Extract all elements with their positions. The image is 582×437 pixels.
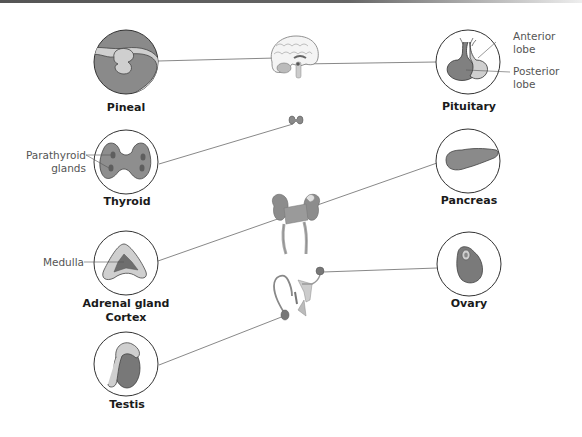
callout-anterior-line1: Anterior [513,30,555,43]
callout-anterior-lobe: Anterior lobe [513,30,555,56]
label-pituitary: Pituitary [442,100,496,114]
callout-parathyroid-line1: Parathyroid [24,149,86,162]
line-pituitary [300,62,436,64]
label-thyroid: Thyroid [103,195,150,209]
label-adrenal-cortex: Cortex [106,311,147,325]
pineal-detail [90,30,162,100]
callout-parathyroid-glands: Parathyroid glands [24,149,86,175]
line-thyroid [159,124,293,164]
callout-medulla: Medulla [36,256,84,269]
label-adrenal-gland: Adrenal gland [83,297,170,311]
line-ovary [323,268,437,272]
thyroid-small-icon [289,116,303,124]
reproductive-icon [274,267,324,320]
kidneys-icon [272,194,319,254]
pancreas-detail [436,129,500,193]
label-pancreas: Pancreas [441,194,497,208]
label-pineal: Pineal [107,101,145,115]
callout-posterior-line1: Posterior [513,65,559,78]
callout-anterior-line2: lobe [513,43,555,56]
pituitary-detail [436,30,510,94]
line-pineal [158,58,276,61]
brain-icon [271,36,318,78]
label-ovary: Ovary [451,297,488,311]
ovary-detail [437,232,501,296]
testis-detail [94,332,158,396]
thyroid-detail [86,130,158,194]
line-testis [159,316,284,365]
callout-posterior-lobe: Posterior lobe [513,65,559,91]
callout-parathyroid-line2: glands [24,162,86,175]
callout-posterior-line2: lobe [513,78,559,91]
adrenal-detail [84,231,158,295]
label-testis: Testis [109,398,145,412]
endocrine-diagram [0,0,582,437]
